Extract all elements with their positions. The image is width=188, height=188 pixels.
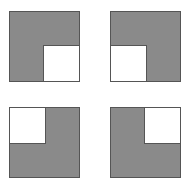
notch-bottom-right: [43, 45, 79, 81]
notch-bottom-left: [110, 45, 146, 81]
square-with-notch-svg: [9, 107, 80, 178]
notch-top-right: [144, 107, 180, 143]
shape-square-top-right: [110, 11, 180, 81]
figure-canvas: [0, 0, 188, 188]
shape-square-top-left: [9, 11, 79, 81]
shape-square-bottom-left: [9, 107, 79, 177]
square-with-notch-svg: [110, 11, 181, 82]
notch-top-left: [9, 107, 45, 143]
shape-square-bottom-right: [110, 107, 180, 177]
square-with-notch-svg: [110, 107, 181, 178]
square-with-notch-svg: [9, 11, 80, 82]
